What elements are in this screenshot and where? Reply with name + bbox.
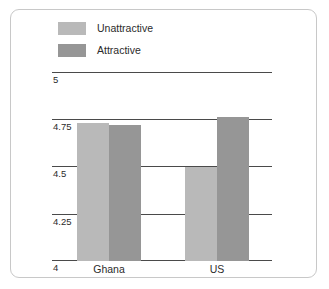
ytick-label-425: 4.25 (53, 217, 72, 227)
bar-ghana-unattractive (77, 123, 109, 261)
ytick-label-45: 4.5 (53, 169, 66, 179)
chart-figure: Unattractive Attractive 5 4.75 4.5 4.25 … (0, 0, 329, 289)
ytick-label-475: 4.75 (53, 122, 72, 132)
xtick-label-us: US (185, 264, 249, 275)
gridline-5 (52, 72, 272, 73)
legend-label-unattractive: Unattractive (97, 23, 153, 34)
legend-swatch-attractive-icon (58, 44, 86, 57)
legend-label-attractive: Attractive (97, 45, 141, 56)
legend-item-unattractive: Unattractive (58, 20, 218, 37)
legend-item-attractive: Attractive (58, 42, 218, 59)
ytick-label-4: 4 (53, 263, 58, 273)
xtick-label-ghana: Ghana (77, 264, 141, 275)
plot-area: 5 4.75 4.5 4.25 4 Ghana US (52, 72, 272, 261)
legend-swatch-unattractive-icon (58, 22, 86, 35)
bar-ghana-attractive (109, 125, 141, 261)
ytick-label-5: 5 (53, 75, 58, 85)
bar-us-attractive (217, 117, 249, 261)
chart-legend: Unattractive Attractive (58, 20, 218, 64)
bar-us-unattractive (185, 167, 217, 262)
